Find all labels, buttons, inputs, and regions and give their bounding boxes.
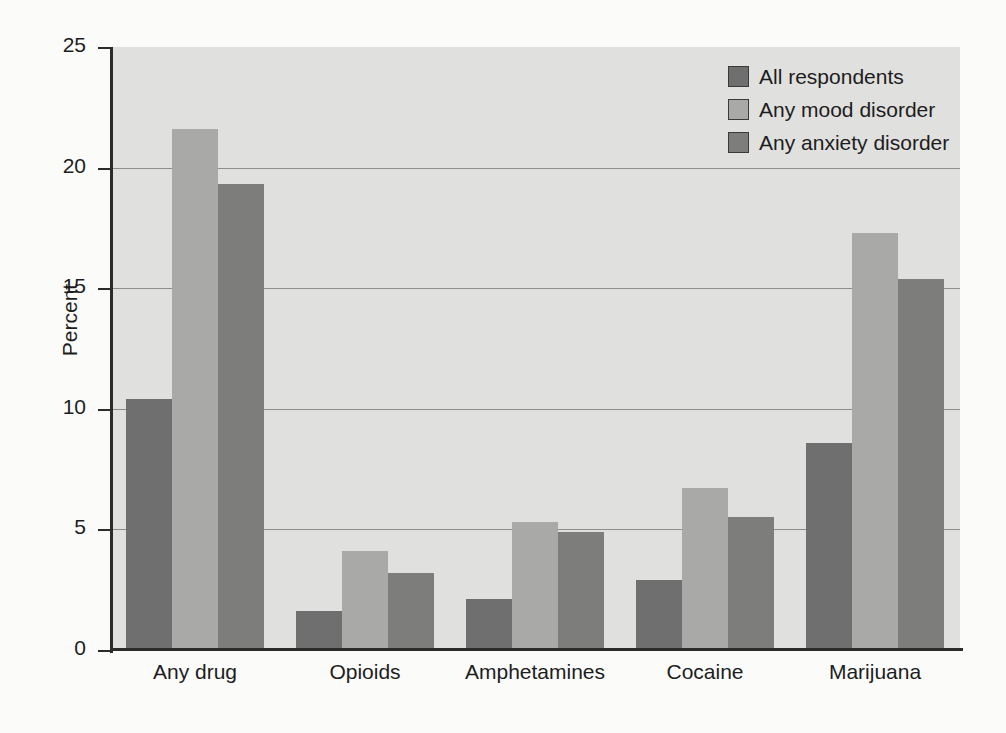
y-axis-title: Percent: [58, 250, 82, 390]
x-axis-tick-label: Amphetamines: [450, 660, 620, 684]
bar: [558, 532, 604, 650]
bar: [388, 573, 434, 650]
bar: [728, 517, 774, 650]
legend-item-label: All respondents: [759, 65, 904, 89]
gridline: [110, 168, 960, 169]
bar: [898, 279, 944, 650]
y-axis-tick-label: 0: [16, 636, 86, 660]
y-axis-tick-mark: [98, 529, 112, 531]
bar: [852, 233, 898, 650]
legend-item: All respondents: [728, 60, 949, 93]
legend-item: Any mood disorder: [728, 93, 949, 126]
y-axis-tick-label: 15: [16, 274, 86, 298]
legend-swatch-icon: [728, 66, 749, 87]
chart-legend: All respondentsAny mood disorderAny anxi…: [728, 60, 949, 159]
y-axis-tick-label: 10: [16, 395, 86, 419]
x-axis-tick-label: Any drug: [110, 660, 280, 684]
legend-item-label: Any mood disorder: [759, 98, 935, 122]
bar: [512, 522, 558, 650]
x-axis-tick-label: Marijuana: [790, 660, 960, 684]
bar-chart-figure: Percent 0510152025 Any drugOpioidsAmphet…: [0, 0, 1006, 733]
legend-item-label: Any anxiety disorder: [759, 131, 949, 155]
y-axis-tick-label: 20: [16, 154, 86, 178]
x-axis-tick-label: Opioids: [280, 660, 450, 684]
legend-item: Any anxiety disorder: [728, 126, 949, 159]
y-axis-tick-label: 5: [16, 515, 86, 539]
bar: [682, 488, 728, 650]
x-axis-tick-label: Cocaine: [620, 660, 790, 684]
bar: [172, 129, 218, 650]
y-axis-tick-mark: [98, 650, 112, 652]
bar: [126, 399, 172, 650]
y-axis-tick-mark: [98, 288, 112, 290]
y-axis-tick-mark: [98, 168, 112, 170]
legend-swatch-icon: [728, 132, 749, 153]
y-axis-tick-label: 25: [16, 33, 86, 57]
bar: [296, 611, 342, 650]
y-axis-line: [110, 47, 113, 653]
legend-swatch-icon: [728, 99, 749, 120]
bar: [806, 443, 852, 650]
y-axis-tick-mark: [98, 409, 112, 411]
y-axis-tick-mark: [98, 47, 112, 49]
bar: [342, 551, 388, 650]
bar: [636, 580, 682, 650]
x-axis-line: [110, 648, 963, 651]
bar: [466, 599, 512, 650]
bar: [218, 184, 264, 650]
